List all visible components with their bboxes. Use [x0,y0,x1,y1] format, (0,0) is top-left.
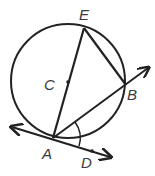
geometry-diagram: E B C A D [0,0,155,176]
label-B: B [127,86,137,103]
label-C: C [44,76,55,93]
label-E: E [79,6,90,23]
point-C [66,80,70,84]
angle-arc-BAD [75,122,80,146]
label-D: D [81,154,92,171]
label-A: A [41,145,52,162]
point-D [90,149,94,153]
